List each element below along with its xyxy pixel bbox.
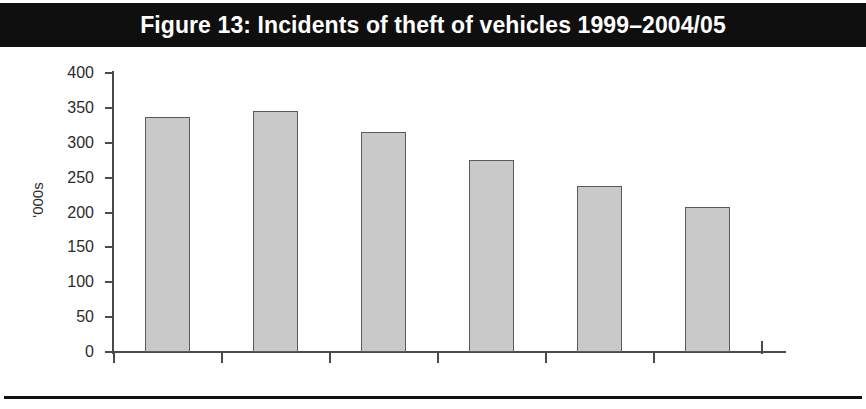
x-axis-tick — [221, 352, 223, 363]
y-axis-tick-label: 300 — [67, 134, 94, 152]
x-axis-tick — [113, 352, 115, 363]
y-axis-tick-label: 100 — [67, 273, 94, 291]
bottom-divider — [4, 396, 862, 399]
y-axis-tick: 150 — [105, 246, 113, 248]
y-axis-tick: 300 — [105, 142, 113, 144]
x-axis-tick — [545, 352, 547, 363]
y-axis-tick-label: 50 — [76, 308, 94, 326]
y-axis-tick: 250 — [105, 177, 113, 179]
page-title: Figure 13: Incidents of theft of vehicle… — [0, 3, 866, 47]
x-axis-tick — [761, 341, 763, 354]
y-axis-tick: 100 — [105, 281, 113, 283]
figure-title-banner: Figure 13: Incidents of theft of vehicle… — [0, 3, 866, 47]
y-axis-tick: 400 — [105, 72, 113, 74]
bar-2004–2005 — [685, 207, 730, 352]
y-axis-tick-label: 400 — [67, 64, 94, 82]
bar-2002–2003 — [469, 160, 514, 353]
x-axis-tick — [329, 352, 331, 363]
y-axis-tick-label: 350 — [67, 99, 94, 117]
x-axis-tick — [437, 352, 439, 363]
y-axis-tick-label: 250 — [67, 169, 94, 187]
y-axis-tick: 200 — [105, 212, 113, 214]
y-axis-tick: 350 — [105, 107, 113, 109]
x-axis-tick — [653, 352, 655, 363]
y-axis-label: '000s — [29, 182, 46, 217]
bar-1999 — [145, 117, 190, 352]
bar-2003–2004 — [577, 186, 622, 352]
y-axis-tick-label: 150 — [67, 238, 94, 256]
bar-2001–2002 — [361, 132, 406, 352]
y-axis-tick: 50 — [105, 316, 113, 318]
y-axis-tick-label: 0 — [85, 343, 94, 361]
y-axis-tick: 0 — [105, 351, 113, 353]
figure-container: Figure 13: Incidents of theft of vehicle… — [0, 0, 866, 409]
y-axis-tick-label: 200 — [67, 204, 94, 222]
bar-2000 — [253, 111, 298, 352]
plot-area: 050100150200250300350400199920002001–200… — [113, 73, 785, 352]
